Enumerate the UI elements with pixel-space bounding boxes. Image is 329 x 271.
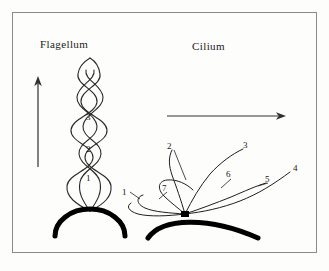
cilium-label-7: 7 [162, 183, 167, 193]
cilium-label-1: 1 [122, 187, 127, 197]
panel-title-flagellum: Flagellum [40, 38, 88, 50]
flagellum-label-3: 3 [86, 112, 91, 122]
flagellum-label-1: 1 [86, 173, 91, 183]
panel-title-cilium: Cilium [192, 40, 225, 52]
cilium-label-5: 5 [265, 174, 270, 184]
flagellum-label-2: 2 [86, 144, 91, 154]
cilium-label-3: 3 [243, 140, 248, 150]
cilium-basal-body [181, 211, 189, 217]
flagellum-cilium-diagram: Flagellum Cilium 3 2 1 1 2 3 4 5 6 7 [0, 0, 329, 271]
cilium-label-6: 6 [226, 169, 231, 179]
cilium-label-4: 4 [293, 163, 298, 173]
cilium-label-2: 2 [167, 141, 172, 151]
